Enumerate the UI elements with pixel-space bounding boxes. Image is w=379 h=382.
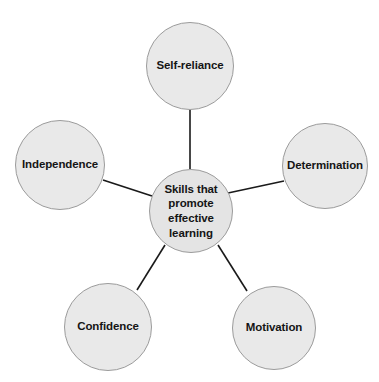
node-center-skills[interactable]: Skills thatpromoteeffectivelearning [149, 169, 233, 253]
node-label-self-reliance: Self-reliance [156, 60, 223, 72]
node-label-independence: Independence [22, 159, 98, 171]
node-label-center: Skills thatpromoteeffectivelearning [164, 182, 217, 241]
node-self-reliance[interactable]: Self-reliance [146, 22, 234, 110]
node-determination[interactable]: Determination [282, 123, 368, 209]
node-label-motivation: Motivation [246, 322, 303, 334]
edge-center-to-confidence [137, 245, 165, 290]
node-label-confidence: Confidence [77, 321, 139, 333]
edge-center-to-independence [103, 180, 152, 196]
node-confidence[interactable]: Confidence [64, 283, 152, 371]
node-motivation[interactable]: Motivation [232, 286, 316, 370]
edge-center-to-motivation [218, 245, 247, 291]
edge-center-to-determination [228, 181, 284, 193]
node-independence[interactable]: Independence [15, 120, 105, 210]
diagram-canvas: Self-reliance Determination Motivation C… [0, 0, 379, 382]
node-label-determination: Determination [287, 160, 363, 172]
